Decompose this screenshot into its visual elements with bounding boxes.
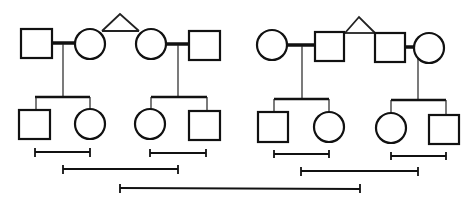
twin-marker-triangle — [345, 17, 375, 33]
son-symbol — [258, 112, 288, 142]
bracket-right-family-cousins — [301, 167, 418, 176]
bracket-left-family-sibs-1 — [35, 148, 90, 157]
female-symbol — [257, 30, 287, 60]
relationship-brackets — [35, 148, 446, 193]
twin-marker-triangle — [102, 14, 139, 31]
son-symbol — [189, 111, 220, 140]
bracket-right-family-sibs-1 — [274, 150, 329, 158]
daughter-symbol — [314, 112, 344, 142]
male-twin-symbol — [375, 33, 405, 62]
bracket-left-family-sibs-2 — [150, 149, 206, 157]
pedigree-diagram — [0, 0, 474, 207]
bracket-right-family-sibs-2 — [391, 152, 446, 160]
daughter-symbol — [135, 109, 165, 139]
female-twin-symbol — [136, 29, 166, 59]
male-symbol — [21, 29, 52, 58]
daughter-symbol — [75, 109, 105, 139]
daughter-symbol — [376, 113, 406, 143]
female-symbol — [414, 33, 444, 63]
left-family — [19, 14, 220, 140]
bracket-between-families — [120, 184, 360, 193]
female-twin-symbol — [75, 29, 105, 59]
son-symbol — [19, 110, 50, 139]
son-symbol — [429, 115, 459, 144]
male-symbol — [189, 31, 220, 60]
male-twin-symbol — [315, 32, 344, 61]
right-family — [257, 17, 459, 144]
bracket-left-family-cousins — [63, 165, 178, 174]
